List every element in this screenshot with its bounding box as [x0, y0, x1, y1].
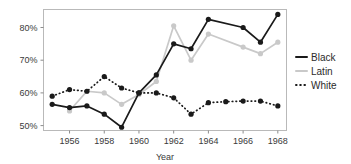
data-point [275, 12, 280, 17]
data-point [258, 40, 263, 45]
legend-label: Latin [311, 66, 333, 77]
data-point [241, 45, 246, 50]
data-point [50, 94, 55, 99]
data-point [258, 51, 263, 56]
data-point [258, 98, 263, 103]
data-point [119, 125, 124, 130]
x-tick-label: 1956 [60, 136, 80, 146]
data-point [67, 87, 72, 92]
data-point [223, 99, 228, 104]
data-point [154, 90, 159, 95]
data-point [67, 105, 72, 110]
data-point [188, 112, 193, 117]
line-chart: 50%60%70%80% 195619581960196219641966196… [0, 0, 351, 164]
x-tick-label: 1964 [198, 136, 218, 146]
data-point [50, 102, 55, 107]
legend-label: White [311, 80, 337, 91]
data-point [136, 90, 141, 95]
data-point [275, 40, 280, 45]
data-point [171, 23, 176, 28]
data-point [84, 103, 89, 108]
data-point [102, 90, 107, 95]
x-tick-label: 1960 [129, 136, 149, 146]
y-tick-label: 50% [19, 121, 37, 131]
data-point [119, 102, 124, 107]
x-tick-label: 1958 [94, 136, 114, 146]
data-point [188, 58, 193, 63]
data-point [171, 95, 176, 100]
data-point [154, 79, 159, 84]
data-point [171, 41, 176, 46]
data-point [188, 46, 193, 51]
data-point [102, 112, 107, 117]
legend-label: Black [311, 52, 336, 63]
y-tick-label: 80% [19, 23, 37, 33]
x-tick-label: 1966 [233, 136, 253, 146]
data-point [154, 72, 159, 77]
data-point [275, 103, 280, 108]
data-point [206, 100, 211, 105]
y-tick-label: 60% [19, 88, 37, 98]
y-tick-label: 70% [19, 55, 37, 65]
data-point [206, 31, 211, 36]
data-point [241, 25, 246, 30]
data-point [206, 17, 211, 22]
data-point [102, 74, 107, 79]
x-tick-label: 1968 [268, 136, 288, 146]
data-point [84, 89, 89, 94]
x-tick-label: 1962 [164, 136, 184, 146]
data-point [241, 98, 246, 103]
data-point [119, 85, 124, 90]
x-axis-title: Year [156, 152, 174, 162]
